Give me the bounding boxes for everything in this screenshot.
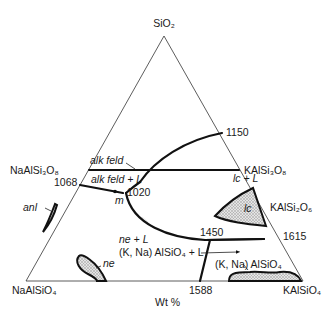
label-m: m: [115, 194, 124, 206]
ternary-diagram: SiO₂ NaAlSiO₄ KAlSiO₄ NaAlSi₃O₈ KAlSi₃O₈…: [0, 0, 330, 331]
vertex-label-bottom-left: NaAlSiO₄: [12, 284, 57, 296]
cotectic-1150-1020: [140, 133, 222, 182]
units-label: Wt %: [155, 296, 180, 308]
temp-1615: 1615: [283, 230, 307, 242]
leucite-field: [215, 188, 266, 226]
point-m: [113, 190, 117, 194]
alk-feld-leader: [126, 163, 135, 169]
vertex-label-bottom-right: KAlSiO₄: [283, 284, 321, 296]
temp-1150: 1150: [226, 126, 249, 138]
label-alk-feld: alk feld: [90, 154, 124, 166]
temp-1068: 1068: [54, 176, 78, 188]
label-kna-L: (K, Na) AlSiO₄ + L: [119, 246, 204, 258]
label-anl: anl: [23, 201, 38, 213]
label-lc: lc: [244, 202, 252, 214]
right-edge: [164, 36, 303, 281]
label-ne-L: ne + L: [119, 233, 149, 245]
temp-1450: 1450: [200, 226, 224, 238]
nepheline-field: [77, 255, 106, 281]
kna-alsio4-field: [229, 272, 301, 281]
label-leucite-comp: KAlSi₂O₆: [270, 201, 312, 213]
temp-1020: 1020: [127, 186, 151, 198]
label-ne: ne: [103, 257, 115, 269]
anl-leader: [45, 208, 51, 211]
label-kna: (K, Na) AlSiO₄: [215, 258, 282, 270]
label-nafeldspar: NaAlSi₃O₈: [10, 164, 59, 176]
vertex-label-top: SiO₂: [153, 17, 175, 29]
label-lc-L: lc + L: [233, 172, 259, 184]
label-alk-feld-L: alk feld + L: [91, 173, 142, 185]
temp-1588: 1588: [189, 284, 213, 296]
